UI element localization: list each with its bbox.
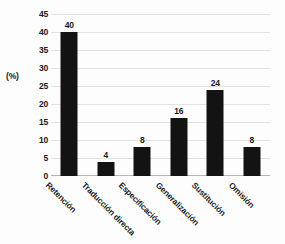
bar-group: 8	[124, 14, 160, 176]
y-axis-tick-label: 45	[28, 9, 48, 19]
y-axis-tick-label: 15	[28, 117, 48, 127]
bar-value-label: 4	[103, 150, 108, 160]
bar-group: 16	[161, 14, 197, 176]
bar	[61, 32, 78, 176]
bar	[170, 118, 187, 176]
y-axis-title: (%)	[6, 71, 19, 81]
bar-group: 4	[87, 14, 123, 176]
bar-group: 40	[51, 14, 87, 176]
bar-value-label: 24	[211, 78, 220, 88]
bar-group: 8	[234, 14, 270, 176]
bar-value-label: 40	[65, 20, 74, 30]
y-axis-tick-label: 25	[28, 81, 48, 91]
y-axis-tick-label: 0	[28, 171, 48, 181]
y-axis-tick-label: 10	[28, 135, 48, 145]
bar-group: 24	[197, 14, 233, 176]
bar	[207, 90, 224, 176]
bar-value-label: 8	[249, 135, 254, 145]
y-axis-tick-label: 40	[28, 27, 48, 37]
bar	[97, 162, 114, 176]
bars: 404816248	[51, 14, 270, 176]
x-axis-tick-label-slot: Omisión	[234, 178, 270, 244]
bar-value-label: 8	[140, 135, 145, 145]
y-axis-tick-label: 30	[28, 63, 48, 73]
y-axis-tick-labels: 051015202530354045	[26, 0, 48, 244]
x-axis-tick-label: Retención	[44, 180, 78, 214]
bar-chart: (%) 051015202530354045 404816248 Retenci…	[0, 0, 285, 244]
y-axis-tick-label: 20	[28, 99, 48, 109]
y-axis-tick-label: 5	[28, 153, 48, 163]
bar	[134, 147, 151, 176]
x-axis-tick-labels: RetenciónTraducción directaEspecificació…	[51, 178, 270, 244]
bar-value-label: 16	[174, 106, 183, 116]
bar	[243, 147, 260, 176]
plot-area: 404816248	[51, 14, 270, 176]
y-axis-tick-label: 35	[28, 45, 48, 55]
